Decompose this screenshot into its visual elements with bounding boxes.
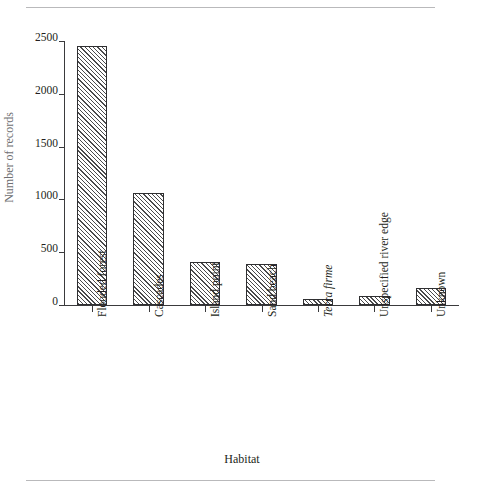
x-tick-mark — [205, 306, 206, 312]
y-tick-label: 0 — [52, 296, 58, 308]
y-tick-label: 2000 — [35, 85, 58, 97]
bottom-horizontal-rule — [26, 480, 435, 481]
x-tick-mark — [149, 306, 150, 312]
x-axis-label: Island point — [210, 262, 222, 317]
x-axis-title: Habitat — [0, 452, 484, 467]
top-horizontal-rule — [26, 7, 435, 8]
x-axis-label: Cascades — [154, 274, 166, 317]
y-tick-mark — [59, 305, 64, 306]
x-tick-mark — [92, 306, 93, 312]
x-axis-label: Terra firme — [323, 265, 335, 317]
x-tick-mark — [318, 306, 319, 312]
x-axis-label: Unspecified river edge — [379, 212, 391, 317]
figure-container: Number of records 05001000150020002500 F… — [0, 0, 484, 497]
y-tick-mark — [59, 147, 64, 148]
x-axis-label: Sand beach — [267, 264, 279, 317]
x-axis-label: Flooded forest — [97, 250, 109, 317]
y-tick-mark — [59, 252, 64, 253]
y-tick-label: 2500 — [35, 32, 58, 44]
x-tick-mark — [374, 306, 375, 312]
y-tick-mark — [59, 41, 64, 42]
x-tick-mark — [431, 306, 432, 312]
y-tick-mark — [59, 199, 64, 200]
y-axis-line — [64, 41, 65, 306]
x-axis-label: Unknown — [436, 272, 448, 317]
y-axis-title: Number of records — [2, 112, 17, 203]
y-tick-label: 1500 — [35, 138, 58, 150]
y-tick-mark — [59, 94, 64, 95]
y-tick-label: 1000 — [35, 190, 58, 202]
y-tick-label: 500 — [41, 243, 58, 255]
plot-area: 05001000150020002500 Flooded forestCasca… — [64, 34, 459, 306]
x-tick-mark — [262, 306, 263, 312]
